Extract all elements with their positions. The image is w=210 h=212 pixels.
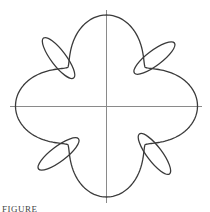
polar-curve-figure	[0, 0, 210, 212]
figure-caption: FIGURE	[2, 205, 38, 212]
